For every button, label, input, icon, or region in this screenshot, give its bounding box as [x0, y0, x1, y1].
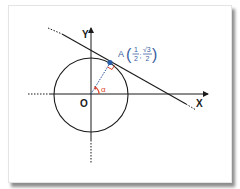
- tangent-line-dotted-end: [186, 104, 196, 110]
- right-paren: ): [152, 46, 157, 63]
- coord-separator: ;: [140, 52, 142, 59]
- y-denominator: 2: [146, 55, 150, 62]
- point-a-label: A ( 1 2 ; √3 2 ): [118, 46, 157, 63]
- x-axis-label: X: [196, 98, 203, 109]
- point-name: A: [118, 49, 124, 59]
- unit-circle-diagram: Y X O α A ( 1 2 ; √3 2 ): [0, 0, 240, 189]
- y-axis-label: Y: [82, 29, 89, 40]
- x-denominator: 2: [134, 55, 138, 62]
- y-numerator: √3: [143, 46, 151, 53]
- tangent-line-dotted-start: [48, 28, 62, 34]
- angle-label: α: [101, 85, 106, 94]
- x-numerator: 1: [134, 46, 138, 53]
- point-a: [107, 60, 112, 65]
- left-paren: (: [126, 46, 132, 63]
- origin-label: O: [80, 98, 88, 109]
